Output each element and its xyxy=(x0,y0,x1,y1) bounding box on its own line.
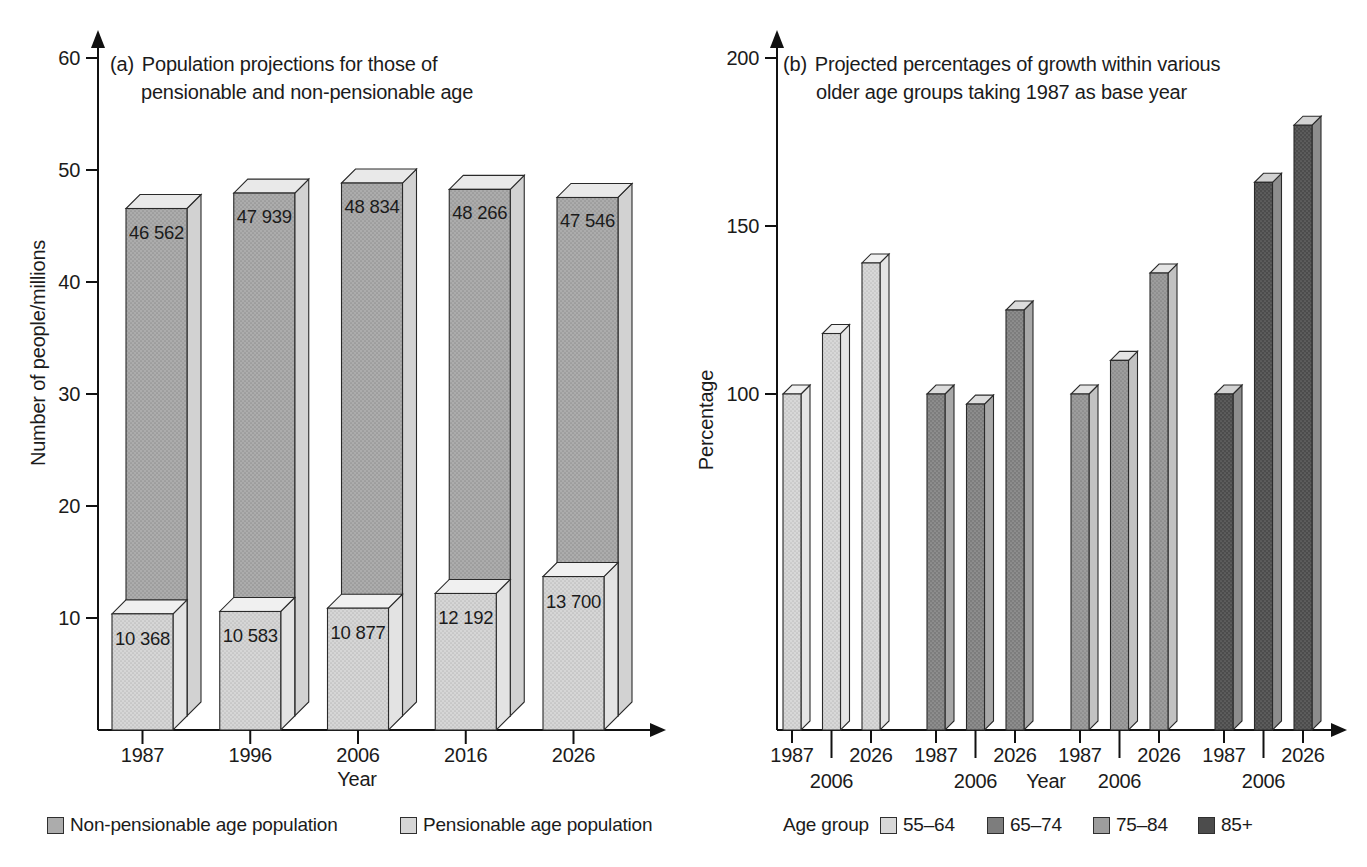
bar-label-pensionable-2026: 13 700 xyxy=(546,591,601,612)
chart-b-xtick-label-75–84-2026: 2026 xyxy=(1137,744,1180,766)
legend-title-age-group: Age group xyxy=(783,814,869,836)
legend-swatch-non-pensionable xyxy=(47,817,64,834)
chart-b-y-axis-arrow xyxy=(770,30,784,48)
chart-b-xtick-label-85+-1987: 1987 xyxy=(1202,744,1245,766)
bar-label-non-pensionable-1987: 46 562 xyxy=(129,222,184,243)
chart-a-ytick-label-50: 50 xyxy=(58,159,80,181)
chart-b-xtick-label-65–74-2006: 2006 xyxy=(954,770,997,792)
chart-a-xtick-label-1987: 1987 xyxy=(121,744,164,766)
chart-b-xtick-label-65–74-1987: 1987 xyxy=(914,744,957,766)
bar-55–64-2026 xyxy=(862,254,889,730)
chart-b-xtick-label-85+-2026: 2026 xyxy=(1281,744,1324,766)
chart-b-xtick-label-55–64-2006: 2006 xyxy=(810,770,853,792)
chart-b-ytick-label-100: 100 xyxy=(727,383,760,405)
chart-a-xtick-label-2026: 2026 xyxy=(552,744,595,766)
chart-a-title: (a) Population projections for those of … xyxy=(110,50,473,106)
chart-b-xtick-label-55–64-2026: 2026 xyxy=(849,744,892,766)
bar-pensionable-1996 xyxy=(220,597,295,730)
legend-label-75-84: 75–84 xyxy=(1116,814,1168,836)
chart-a-ytick-label-20: 20 xyxy=(58,495,80,517)
bar-65–74-2006 xyxy=(967,395,994,730)
chart-a-x-axis-label: Year xyxy=(337,768,377,791)
chart-a-y-axis-arrow xyxy=(91,30,105,48)
chart-a-ytick-label-60: 60 xyxy=(58,47,80,69)
legend-label-65-74: 65–74 xyxy=(1010,814,1062,836)
chart-b-xtick-label-75–84-2006: 2006 xyxy=(1098,770,1141,792)
figure-page: 10203040506046 56210 368198747 93910 583… xyxy=(0,0,1367,867)
chart-b-ytick-label-150: 150 xyxy=(727,215,760,237)
bar-85+-1987 xyxy=(1215,385,1242,730)
bar-55–64-1987 xyxy=(783,385,810,730)
legend-swatch-65-74 xyxy=(987,817,1004,834)
chart-a-title-line2: pensionable and non-pensionable age xyxy=(141,78,473,106)
chart-b-title-line2: older age groups taking 1987 as base yea… xyxy=(816,78,1220,106)
chart-a-xtick-label-1996: 1996 xyxy=(229,744,272,766)
chart-b-y-axis-label: Percentage xyxy=(695,370,718,470)
bar-75–84-2006 xyxy=(1111,351,1138,730)
chart-a-y-axis-label: Number of people/millions xyxy=(27,240,50,466)
bar-label-pensionable-1987: 10 368 xyxy=(115,628,170,649)
chart-b-x-axis-label: Year xyxy=(1026,770,1066,793)
chart-a-ytick-label-30: 30 xyxy=(58,383,80,405)
bar-label-non-pensionable-1996: 47 939 xyxy=(237,206,292,227)
legend-swatch-85-plus xyxy=(1198,817,1215,834)
bar-pensionable-2026 xyxy=(543,563,618,730)
chart-a-title-line1: Population projections for those of xyxy=(142,50,437,78)
bar-65–74-1987 xyxy=(927,385,954,730)
bar-pensionable-2016 xyxy=(435,579,510,730)
legend-swatch-75-84 xyxy=(1093,817,1110,834)
chart-a-ytick-label-40: 40 xyxy=(58,271,80,293)
legend-label-non-pensionable: Non-pensionable age population xyxy=(70,814,338,836)
bar-label-pensionable-1996: 10 583 xyxy=(223,625,278,646)
charts-canvas: 10203040506046 56210 368198747 93910 583… xyxy=(0,0,1367,867)
chart-a-title-prefix: (a) xyxy=(110,50,134,78)
bar-55–64-2006 xyxy=(823,325,850,730)
bar-pensionable-1987 xyxy=(112,600,187,730)
chart-a-xtick-label-2006: 2006 xyxy=(336,744,379,766)
bar-label-pensionable-2006: 10 877 xyxy=(331,622,386,643)
chart-a-x-axis-arrow xyxy=(650,723,666,737)
legend-swatch-pensionable xyxy=(400,817,417,834)
bar-75–84-1987 xyxy=(1071,385,1098,730)
chart-b-xtick-label-85+-2006: 2006 xyxy=(1242,770,1285,792)
chart-b-xtick-label-65–74-2026: 2026 xyxy=(993,744,1036,766)
legend-label-pensionable: Pensionable age population xyxy=(423,814,652,836)
bar-75–84-2026 xyxy=(1150,264,1177,730)
chart-b-title-prefix: (b) xyxy=(783,50,807,78)
bar-label-pensionable-2016: 12 192 xyxy=(438,607,493,628)
bar-pensionable-2006 xyxy=(328,594,403,730)
chart-b-title: (b) Projected percentages of growth with… xyxy=(783,50,1220,106)
bar-label-non-pensionable-2026: 47 546 xyxy=(560,210,615,231)
legend-swatch-55-64 xyxy=(880,817,897,834)
bar-85+-2026 xyxy=(1294,116,1321,730)
bar-85+-2006 xyxy=(1255,173,1282,730)
chart-b-ytick-label-200: 200 xyxy=(727,47,760,69)
chart-b-xtick-label-55–64-1987: 1987 xyxy=(770,744,813,766)
chart-b-x-axis-arrow xyxy=(1331,723,1347,737)
bar-label-non-pensionable-2006: 48 834 xyxy=(345,196,400,217)
chart-b-title-line1: Projected percentages of growth within v… xyxy=(815,50,1220,78)
bar-label-non-pensionable-2016: 48 266 xyxy=(452,202,507,223)
bar-65–74-2026 xyxy=(1006,301,1033,730)
legend-label-55-64: 55–64 xyxy=(903,814,955,836)
chart-a-ytick-label-10: 10 xyxy=(58,607,80,629)
chart-a-xtick-label-2016: 2016 xyxy=(444,744,487,766)
chart-b-xtick-label-75–84-1987: 1987 xyxy=(1058,744,1101,766)
legend-label-85-plus: 85+ xyxy=(1221,814,1253,836)
